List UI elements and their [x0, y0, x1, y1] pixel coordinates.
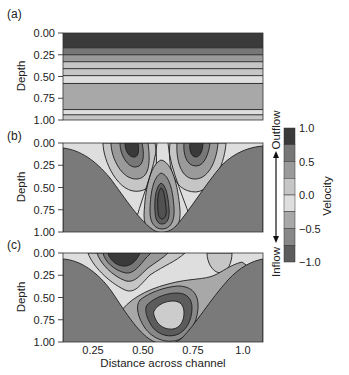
- x-tick-label: 0.75: [182, 344, 203, 356]
- figure: (a) (b) (c): [0, 0, 349, 375]
- y-tick-label: 0.50: [34, 292, 55, 304]
- x-axis-label: Distance across channel: [100, 357, 225, 369]
- inflow-annotation: Inflow: [270, 246, 282, 277]
- y-tick-label: 0.75: [34, 92, 55, 104]
- panel-a-layer: [63, 83, 263, 109]
- panel-a-layer: [63, 69, 263, 76]
- colorbar-band: [284, 128, 295, 145]
- colorbar-label: Velocity: [321, 176, 333, 216]
- x-tick-label: 1.0: [235, 344, 250, 356]
- colorbar-band: [284, 162, 295, 179]
- y-tick-label: 0.25: [34, 269, 55, 281]
- y-tick-label: 1.00: [34, 336, 55, 348]
- y-axis-label-c: Depth: [15, 282, 27, 313]
- y-tick-label: 1.00: [34, 114, 55, 126]
- panel-label-a: (a): [7, 7, 22, 21]
- colorbar-band: [284, 229, 295, 246]
- colorbar: 1.00.50.0−0.5−1.0 Velocity Outflow Inflo…: [270, 110, 333, 277]
- panel-a-layer: [63, 76, 263, 84]
- colorbar-tick-label: 0.0: [299, 189, 314, 201]
- x-axis: 0.250.500.751.0: [82, 344, 250, 356]
- outflow-annotation: Outflow: [270, 110, 282, 150]
- colorbar-band: [284, 178, 295, 195]
- colorbar-ticks: 1.00.50.0−0.5−1.0: [299, 122, 321, 268]
- y-tick-label: 0.00: [34, 137, 55, 149]
- y-tick-label: 1.00: [34, 226, 55, 238]
- x-tick-label: 0.50: [132, 344, 153, 356]
- panel-label-b: (b): [7, 129, 22, 143]
- y-tick-label: 0.25: [34, 49, 55, 61]
- y-axes: 0.000.250.500.751.000.000.250.500.751.00…: [34, 27, 63, 348]
- y-tick-label: 0.75: [34, 314, 55, 326]
- colorbar-band: [284, 195, 295, 212]
- panel-a-layer: [63, 110, 263, 115]
- x-tick-label: 0.25: [82, 344, 103, 356]
- y-tick-label: 0.25: [34, 159, 55, 171]
- panel-b: [63, 143, 263, 242]
- y-tick-label: 0.00: [34, 247, 55, 259]
- colorbar-tick-label: 0.5: [299, 156, 314, 168]
- panel-a-layers: [63, 33, 263, 120]
- panel-a-layer: [63, 48, 263, 55]
- panel-a-layer: [63, 115, 263, 120]
- panel-a-layer: [63, 33, 263, 48]
- panel-c: [63, 253, 263, 352]
- y-tick-label: 0.50: [34, 182, 55, 194]
- double-arrow-icon: [273, 151, 279, 243]
- y-axis-label-a: Depth: [15, 61, 27, 92]
- panel-a-layer: [63, 62, 263, 69]
- colorbar-band: [284, 212, 295, 229]
- panel-a-layer: [63, 55, 263, 62]
- y-axis-label-b: Depth: [15, 172, 27, 203]
- colorbar-band: [284, 245, 295, 262]
- y-tick-label: 0.50: [34, 71, 55, 83]
- y-tick-label: 0.75: [34, 204, 55, 216]
- colorbar-band: [284, 145, 295, 162]
- y-tick-label: 0.00: [34, 27, 55, 39]
- colorbar-tick-label: −1.0: [299, 256, 321, 268]
- colorbar-tick-label: −0.5: [299, 223, 321, 235]
- colorbar-tick-label: 1.0: [299, 122, 314, 134]
- panel-a: [63, 33, 263, 120]
- panel-label-c: (c): [7, 238, 21, 252]
- colorbar-bands: [284, 128, 295, 262]
